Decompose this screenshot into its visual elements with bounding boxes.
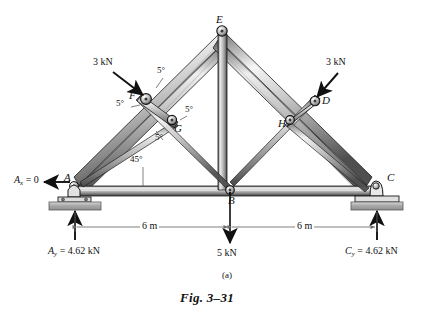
part-label-a: (a) (222, 271, 232, 280)
member-E-C (213, 31, 372, 194)
angle-label-5deg-right: 5° (185, 105, 193, 114)
joint-label-F: F (129, 90, 136, 101)
reaction-symbol-C: C (345, 245, 352, 256)
reaction-label-Ay: Ay = 4.62 kN (48, 246, 100, 258)
member-E-B-vertical (218, 34, 227, 190)
force-label-3kN-left: 3 kN (93, 57, 113, 67)
reaction-value-Ax: = 0 (23, 174, 39, 185)
figure-caption: Fig. 3–31 (180, 291, 234, 304)
angle-label-45deg: 45° (130, 155, 143, 164)
angle-label-5deg-top: 5° (157, 66, 165, 75)
joint-label-G: G (174, 123, 182, 134)
truss-diagram-svg (0, 0, 421, 315)
joint-label-C: C (387, 172, 394, 183)
dimension-label-left-6m: 6 m (140, 221, 159, 231)
joint-label-H: H (278, 118, 286, 129)
force-arrow-3kN-left (113, 72, 143, 95)
joint-label-D: D (322, 95, 330, 106)
dimension-lines (75, 196, 377, 232)
angle-label-5deg-bottom: 5° (155, 133, 163, 142)
reaction-value-Cy: = 4.62 kN (355, 245, 398, 256)
angle-label-5deg-left: 5° (116, 99, 124, 108)
reaction-value-Ay: = 4.62 kN (57, 245, 100, 256)
joint-label-B: B (228, 195, 235, 206)
force-label-3kN-right: 3 kN (326, 57, 346, 67)
force-label-5kN: 5 kN (217, 248, 237, 258)
joint-label-A: A (64, 172, 71, 183)
dimension-label-right-6m: 6 m (295, 221, 314, 231)
figure-container: A B C E F G D H 5° 5° 5° 5° 45° 3 kN 3 k… (0, 0, 421, 315)
joint-label-E: E (216, 14, 223, 25)
reaction-label-Ax: Ax = 0 (14, 175, 39, 187)
reaction-label-Cy: Cy = 4.62 kN (345, 246, 398, 258)
